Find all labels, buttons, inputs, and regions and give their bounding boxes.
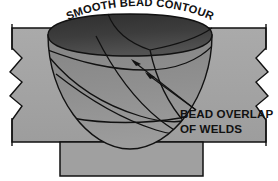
weld-bead-contour-figure: SMOOTH BEAD CONTOUR BEAD OVERLAP OF WELD… [0,0,278,181]
callout-line-1: BEAD OVERLAP [180,107,273,120]
weld-diagram-canvas: SMOOTH BEAD CONTOUR BEAD OVERLAP OF WELD… [0,0,278,181]
callout-line-2: OF WELDS [180,122,242,135]
